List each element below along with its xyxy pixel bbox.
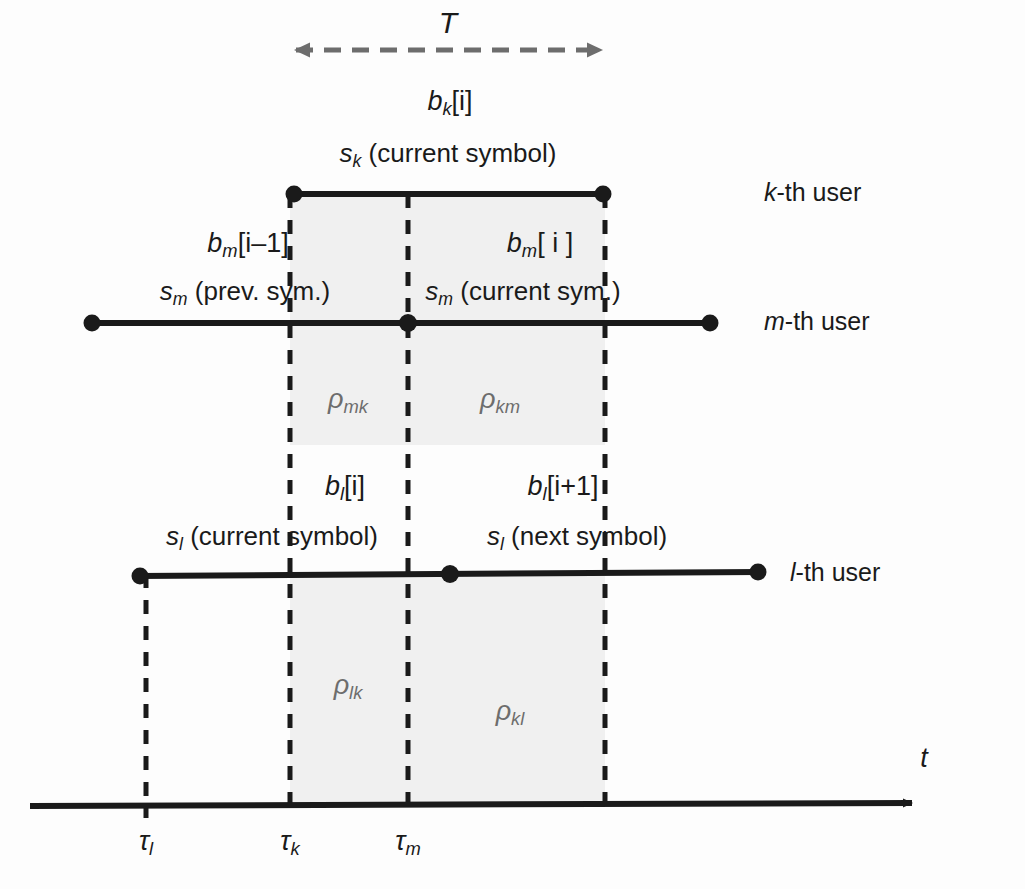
tau-base: τ xyxy=(280,826,290,856)
symbol-subscript: k xyxy=(353,151,362,171)
endpoint-dot xyxy=(702,315,719,332)
user-line-l xyxy=(132,564,767,585)
symbol-base: s xyxy=(340,138,353,168)
bit-index: [ i ] xyxy=(537,228,573,258)
endpoint-dot xyxy=(750,564,767,581)
bit-subscript: m xyxy=(522,240,537,261)
rho-subscript: lk xyxy=(349,682,362,703)
symbol-label-l-next: sl (next symbol) xyxy=(487,523,667,554)
symbol-base: s xyxy=(160,276,173,306)
symbol-base: s xyxy=(166,521,179,551)
symbol-text: (current sym.) xyxy=(453,276,621,306)
correlation-label-rho-lk: ρlk xyxy=(334,672,363,703)
bit-base: b xyxy=(207,228,222,258)
bit-index: [i] xyxy=(344,471,365,501)
rho-subscript: mk xyxy=(343,396,367,417)
user-index-k: k xyxy=(764,178,777,206)
bit-label-l-current: bl[i] xyxy=(325,473,365,504)
endpoint-dot xyxy=(132,568,149,585)
symbol-text: (current symbol) xyxy=(361,138,556,168)
symbol-label-l-current: sl (current symbol) xyxy=(166,523,378,554)
symbol-text: (current symbol) xyxy=(183,521,378,551)
symbol-text: (prev. sym.) xyxy=(188,276,331,306)
correlation-label-rho-kl: ρkl xyxy=(496,698,525,729)
endpoint-dot xyxy=(286,186,303,203)
symbol-boundary-dot xyxy=(399,314,417,332)
user-index-m: m xyxy=(764,307,785,335)
bit-base: b xyxy=(427,86,442,116)
time-marker-tau-l: τl xyxy=(139,828,153,859)
bit-index: [i–1] xyxy=(238,228,289,258)
bit-base: b xyxy=(528,471,543,501)
symbol-base: s xyxy=(425,276,438,306)
time-axis xyxy=(30,803,912,806)
symbol-label-k-current: sk (current symbol) xyxy=(340,140,557,171)
symbol-subscript: m xyxy=(438,289,453,309)
rho-base: ρ xyxy=(328,384,343,414)
time-marker-tau-m: τm xyxy=(395,828,420,859)
symbol-subscript: m xyxy=(173,289,188,309)
tau-base: τ xyxy=(139,826,149,856)
endpoint-dot xyxy=(84,315,101,332)
rho-subscript: kl xyxy=(511,708,524,729)
correlation-label-rho-mk: ρmk xyxy=(328,386,368,417)
symbol-base: s xyxy=(487,521,500,551)
rho-base: ρ xyxy=(334,670,349,700)
rho-base: ρ xyxy=(480,384,495,414)
user-label-k: k-th user xyxy=(764,180,861,205)
user-suffix: -th user xyxy=(777,178,862,206)
bit-index: [i+1] xyxy=(547,471,599,501)
diagram-canvas xyxy=(0,0,1025,889)
correlation-label-rho-km: ρkm xyxy=(480,386,520,417)
diagram-root: T bk[i] sk (current symbol) k-th user bm… xyxy=(0,0,1025,889)
endpoint-dot xyxy=(595,186,612,203)
symbol-text: (next symbol) xyxy=(504,521,667,551)
symbol-label-m-previous: sm (prev. sym.) xyxy=(160,278,330,309)
bit-subscript: k xyxy=(442,98,451,119)
symbol-label-m-current: sm (current sym.) xyxy=(425,278,620,309)
bit-subscript: m xyxy=(222,240,237,261)
bit-label-k-current: bk[i] xyxy=(427,88,472,119)
bit-label-m-current: bm[ i ] xyxy=(507,230,573,261)
user-suffix: -th user xyxy=(785,307,870,335)
symbol-boundary-dot xyxy=(441,565,459,583)
tau-subscript: m xyxy=(405,838,420,859)
interval-label-T: T xyxy=(439,8,457,38)
bit-base: b xyxy=(507,228,522,258)
rho-subscript: km xyxy=(495,396,519,417)
axis-label-t: t xyxy=(920,745,928,772)
bit-label-l-next: bl[i+1] xyxy=(528,473,599,504)
tau-base: τ xyxy=(395,826,405,856)
bit-index: [i] xyxy=(452,86,473,116)
time-marker-tau-k: τk xyxy=(280,828,299,859)
tau-subscript: k xyxy=(290,838,299,859)
user-suffix: -th user xyxy=(796,558,881,586)
bit-base: b xyxy=(325,471,340,501)
bit-label-m-previous: bm[i–1] xyxy=(207,230,288,261)
rho-base: ρ xyxy=(496,696,511,726)
tau-subscript: l xyxy=(149,838,153,859)
user-label-l: l-th user xyxy=(790,560,880,585)
user-label-m: m-th user xyxy=(764,309,870,334)
